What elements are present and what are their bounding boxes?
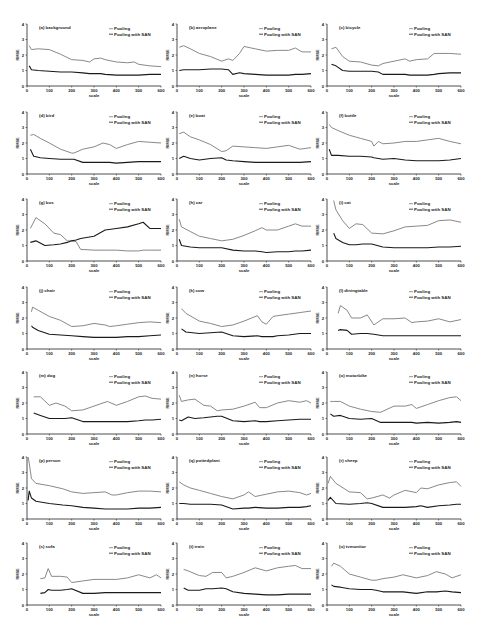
legend-label-pooling: Pooling (414, 201, 430, 206)
x-tick-label: 0 (176, 263, 179, 268)
chart-panel-4: 012340100200300400500600scaleRMSE(e) boa… (166, 110, 315, 187)
y-tick-label: 2 (322, 316, 325, 321)
legend-label-pooling: Pooling (414, 374, 430, 379)
series-line-pooling (328, 476, 461, 498)
x-tick-label: 500 (285, 88, 293, 93)
x-tick-label: 600 (458, 436, 466, 441)
chart-panel-17: 012340100200300400500600scaleRMSE(r) she… (316, 455, 465, 532)
x-axis-label: scale (89, 356, 100, 361)
series-line-pooling (179, 219, 311, 241)
y-axis-label: RMSE (316, 482, 320, 493)
y-tick-label: 3 (172, 556, 175, 561)
y-tick-label: 0 (22, 347, 25, 352)
series-line-pooling-san (329, 149, 461, 161)
x-tick-label: 500 (435, 351, 443, 356)
x-axis-label: scale (239, 526, 250, 531)
series-line-pooling (179, 395, 311, 411)
legend-label-pooling: Pooling (264, 289, 280, 294)
x-tick-label: 400 (113, 351, 121, 356)
y-axis-label: RMSE (316, 49, 320, 60)
x-tick-label: 0 (26, 607, 29, 612)
y-axis-label: RMSE (16, 397, 20, 408)
x-tick-label: 200 (368, 521, 376, 526)
y-tick-label: 0 (172, 517, 175, 522)
y-tick-label: 3 (22, 125, 25, 130)
x-tick-label: 500 (285, 351, 293, 356)
x-tick-label: 600 (308, 263, 316, 268)
y-tick-label: 1 (22, 243, 25, 248)
legend-label-pooling: Pooling (264, 201, 280, 206)
x-tick-label: 600 (458, 263, 466, 268)
y-tick-label: 1 (172, 156, 175, 161)
legend-label-pooling-san: Pooling with SAN (264, 551, 301, 556)
legend-label-pooling-san: Pooling with SAN (264, 295, 301, 300)
y-tick-label: 2 (172, 316, 175, 321)
x-tick-label: 100 (346, 521, 354, 526)
x-tick-label: 200 (218, 351, 226, 356)
series-line-pooling-san (30, 222, 161, 245)
x-tick-label: 100 (196, 521, 204, 526)
x-tick-label: 0 (326, 263, 329, 268)
panel-title: (b) aeroplane (189, 25, 217, 30)
x-tick-label: 200 (68, 521, 76, 526)
x-tick-label: 600 (458, 351, 466, 356)
chart-panel-15: 012340100200300400500600scaleRMSE(p) per… (16, 455, 165, 532)
y-axis-label: RMSE (166, 312, 170, 323)
x-tick-label: 500 (435, 436, 443, 441)
y-tick-label: 2 (22, 228, 25, 233)
y-tick-label: 2 (22, 486, 25, 491)
chart-panel-12: 012340100200300400500600scaleRMSE(m) dog… (16, 370, 165, 447)
x-tick-label: 0 (26, 351, 29, 356)
series-line-pooling (179, 46, 311, 62)
panel-title: (s) sofa (39, 544, 55, 549)
y-tick-label: 3 (322, 37, 325, 42)
y-tick-label: 3 (172, 37, 175, 42)
y-tick-label: 4 (22, 110, 25, 115)
y-tick-label: 1 (322, 587, 325, 592)
panel-title: (c) bicycle (339, 25, 361, 30)
series-line-pooling-san (179, 504, 311, 509)
x-tick-label: 500 (135, 263, 143, 268)
x-tick-label: 100 (346, 176, 354, 181)
x-tick-label: 200 (218, 176, 226, 181)
legend-label-pooling: Pooling (414, 459, 430, 464)
y-tick-label: 3 (322, 470, 325, 475)
y-tick-label: 3 (322, 300, 325, 305)
y-tick-label: 4 (322, 197, 325, 202)
x-tick-label: 600 (158, 607, 166, 612)
x-tick-label: 200 (68, 176, 76, 181)
y-tick-label: 3 (322, 385, 325, 390)
chart-panel-10: 012340100200300400500600scaleRMSE(k) cow… (166, 285, 315, 362)
y-tick-label: 1 (22, 331, 25, 336)
x-tick-label: 400 (263, 176, 271, 181)
y-tick-label: 1 (322, 156, 325, 161)
series-line-pooling (179, 482, 311, 499)
series-line-pooling (338, 306, 461, 325)
x-tick-label: 200 (368, 263, 376, 268)
chart-panel-6: 012340100200300400500600scaleRMSE(g) bus… (16, 197, 165, 274)
y-tick-label: 2 (172, 486, 175, 491)
y-axis-label: RMSE (316, 224, 320, 235)
y-tick-label: 0 (172, 172, 175, 177)
x-axis-label: scale (89, 441, 100, 446)
y-tick-label: 2 (322, 572, 325, 577)
series-line-pooling-san (334, 233, 461, 248)
series-line-pooling-san (28, 491, 161, 509)
y-tick-label: 2 (172, 228, 175, 233)
x-axis-label: scale (239, 612, 250, 617)
y-tick-label: 4 (322, 285, 325, 290)
x-tick-label: 500 (135, 88, 143, 93)
y-tick-label: 3 (22, 37, 25, 42)
y-tick-label: 1 (172, 501, 175, 506)
y-tick-label: 2 (22, 401, 25, 406)
x-tick-label: 200 (218, 263, 226, 268)
legend-label-pooling: Pooling (264, 114, 280, 119)
x-axis-label: scale (389, 181, 400, 186)
x-tick-label: 600 (458, 521, 466, 526)
y-tick-label: 4 (22, 455, 25, 460)
chart-panel-7: 012340100200300400500600scaleRMSE(h) car… (166, 197, 315, 274)
legend-label-pooling-san: Pooling with SAN (414, 207, 451, 212)
x-tick-label: 400 (263, 436, 271, 441)
panel-title: (m) dog (39, 373, 55, 378)
x-tick-label: 200 (368, 351, 376, 356)
